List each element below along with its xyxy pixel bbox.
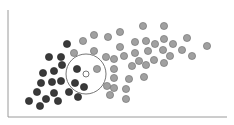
- data-point: [160, 22, 167, 29]
- data-point: [188, 52, 195, 59]
- data-point: [71, 79, 78, 86]
- data-point: [144, 47, 151, 54]
- data-point: [70, 49, 77, 56]
- data-point: [135, 57, 142, 64]
- data-point: [58, 61, 65, 68]
- data-point: [37, 79, 44, 86]
- data-point: [169, 40, 176, 47]
- series-dark: [25, 40, 87, 109]
- data-point: [110, 84, 117, 91]
- data-point: [36, 102, 43, 109]
- data-point: [142, 61, 149, 68]
- data-point: [103, 82, 110, 89]
- data-point: [159, 46, 166, 53]
- data-point: [90, 47, 97, 54]
- data-point: [160, 35, 167, 42]
- data-point: [140, 73, 147, 80]
- data-point: [33, 88, 40, 95]
- data-point: [120, 52, 127, 59]
- data-point: [80, 83, 87, 90]
- data-point: [48, 78, 55, 85]
- data-point: [203, 42, 210, 49]
- data-point: [106, 91, 113, 98]
- series-light: [70, 22, 210, 102]
- data-point: [166, 52, 173, 59]
- data-point: [102, 53, 109, 60]
- data-point: [50, 67, 57, 74]
- data-point: [131, 38, 138, 45]
- data-point: [25, 97, 32, 104]
- data-point: [110, 74, 117, 81]
- data-point: [150, 56, 157, 63]
- data-point: [122, 85, 129, 92]
- data-point: [65, 88, 72, 95]
- data-point: [57, 53, 64, 60]
- data-point: [110, 65, 117, 72]
- data-point: [104, 33, 111, 40]
- scatter-chart: [0, 0, 234, 125]
- data-point: [39, 69, 46, 76]
- data-point: [74, 93, 81, 100]
- data-point: [183, 34, 190, 41]
- data-point: [139, 22, 146, 29]
- data-point: [57, 77, 64, 84]
- data-point: [110, 55, 117, 62]
- data-point: [131, 49, 138, 56]
- data-point: [93, 65, 100, 72]
- data-point: [50, 89, 57, 96]
- data-point: [122, 95, 129, 102]
- data-point: [151, 40, 158, 47]
- axes: [8, 10, 227, 117]
- data-point: [63, 40, 70, 47]
- data-point: [73, 65, 80, 72]
- data-point: [125, 75, 132, 82]
- data-point: [116, 43, 123, 50]
- data-point: [160, 59, 167, 66]
- data-point: [45, 53, 52, 60]
- data-point: [79, 37, 86, 44]
- data-point: [42, 95, 49, 102]
- query-point: [83, 71, 89, 77]
- data-point: [90, 31, 97, 38]
- data-point: [128, 62, 135, 69]
- data-point: [178, 46, 185, 53]
- data-point: [116, 28, 123, 35]
- data-point: [54, 97, 61, 104]
- data-point: [142, 37, 149, 44]
